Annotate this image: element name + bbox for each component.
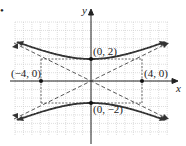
x-axis-label: x <box>175 82 181 94</box>
label-left-point: (−4, 0) <box>11 67 41 80</box>
hyperbola-graph: • y x (0, 2) (0, −2) (−4, 0) (4, 0) <box>0 0 186 146</box>
label-bottom-vertex: (0, −2) <box>93 103 123 116</box>
point-left <box>39 79 43 83</box>
item-marker: • <box>0 4 4 16</box>
label-right-point: (4, 0) <box>144 67 168 80</box>
y-axis-arrow-icon <box>89 9 94 15</box>
label-top-vertex: (0, 2) <box>93 45 117 58</box>
graph-canvas: • y x (0, 2) (0, −2) (−4, 0) (4, 0) <box>0 0 186 146</box>
y-axis-label: y <box>81 4 87 16</box>
vertex-top <box>89 57 93 61</box>
point-right <box>140 79 144 83</box>
